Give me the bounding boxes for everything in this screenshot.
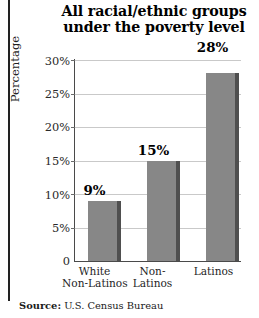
source-text: U.S. Census Bureau: [64, 300, 163, 311]
bar-non-latinos[interactable]: [147, 161, 180, 262]
x-category-line-1: Latinos: [181, 265, 246, 277]
x-category-line-1: White: [62, 265, 127, 277]
y-tick-label-15: 15%: [30, 154, 70, 168]
bar-latinos[interactable]: [206, 73, 239, 261]
y-tick-label-30: 30%: [30, 54, 70, 68]
source-note: Source: U.S. Census Bureau: [19, 300, 163, 311]
y-tick-mark-10: [71, 194, 75, 195]
y-axis-title: Percentage: [8, 9, 22, 129]
y-tick-mark-20: [71, 127, 75, 128]
bar-value-label-latinos: 28%: [196, 39, 229, 55]
y-tick-mark-5: [71, 228, 75, 229]
x-category-label-non-latinos: Non- Latinos: [124, 265, 181, 290]
y-tick-label-25: 25%: [30, 87, 70, 101]
y-tick-mark-15: [71, 161, 75, 162]
y-tick-mark-30: [71, 60, 75, 61]
chart-title-line-1: All racial/ethnic groups: [52, 3, 256, 19]
chart-title-line-2: under the poverty level: [52, 19, 256, 35]
y-tick-label-10: 10%: [30, 188, 70, 202]
y-tick-mark-25: [71, 94, 75, 95]
bar-value-label-white-non-latinos: 9%: [78, 182, 111, 198]
x-category-label-latinos: Latinos: [181, 265, 246, 277]
x-category-line-2: Non-Latinos: [62, 277, 127, 289]
x-category-line-2: Latinos: [124, 277, 181, 289]
x-category-label-white-non-latinos: White Non-Latinos: [62, 265, 127, 290]
x-category-line-1: Non-: [124, 265, 181, 277]
chart-title: All racial/ethnic groups under the pover…: [52, 3, 256, 35]
y-tick-label-5: 5%: [30, 221, 70, 235]
bar-white-non-latinos[interactable]: [88, 201, 121, 261]
gridline-30: [75, 60, 241, 61]
plot-area: [75, 60, 241, 261]
x-axis-line: [74, 261, 241, 262]
source-label: Source:: [19, 300, 61, 311]
bar-value-label-non-latinos: 15%: [137, 142, 170, 158]
y-tick-label-20: 20%: [30, 120, 70, 134]
